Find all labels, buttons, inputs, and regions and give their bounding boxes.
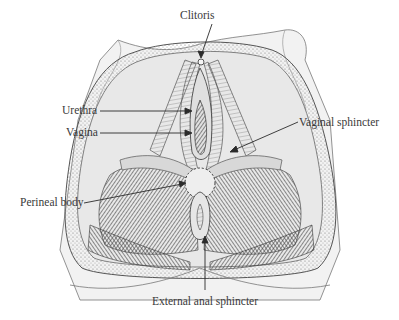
- label-vagina: Vagina: [66, 127, 98, 139]
- label-clitoris: Clitoris: [180, 10, 215, 22]
- clitoris-glans: [198, 59, 204, 65]
- label-external-anal-sphincter: External anal sphincter: [152, 296, 258, 308]
- label-vaginal-sphincter: Vaginal sphincter: [299, 117, 379, 129]
- anal-sphincter: [190, 192, 210, 240]
- anatomy-figure: Clitoris Urethra Vagina Vaginal sphincte…: [0, 0, 399, 320]
- label-urethra: Urethra: [62, 105, 97, 117]
- perineum-illustration: [0, 0, 399, 320]
- label-perineal-body: Perineal body: [20, 197, 84, 209]
